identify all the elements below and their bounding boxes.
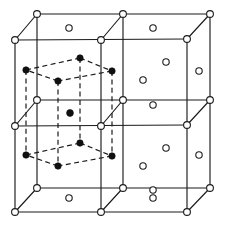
face-centre-atoms-point-8: [163, 59, 169, 65]
inner-cell-corner-atoms-point-7: [55, 163, 61, 169]
lattice-corner-atoms-point-1: [98, 37, 105, 44]
lattice-diagram-canvas: [0, 0, 225, 227]
cube-edge-19: [101, 188, 123, 212]
tetragonal-edge-1: [80, 58, 112, 71]
cube-edge-13: [101, 14, 123, 40]
face-centre-atoms: [66, 25, 202, 201]
lattice-corner-atoms-point-0: [12, 37, 19, 44]
tetragonal-edge-3: [26, 70, 58, 81]
cube-edge-12: [15, 14, 37, 40]
lattice-corner-atoms-point-3: [12, 123, 19, 130]
lattice-corner-atoms-point-13: [120, 97, 127, 104]
lattice-corner-atoms-point-2: [184, 36, 191, 43]
lattice-corner-atoms-point-17: [207, 185, 214, 192]
lattice-corner-atoms-point-14: [207, 97, 214, 104]
lattice-corner-atoms-point-5: [184, 122, 191, 129]
lattice-corner-atoms-point-6: [12, 209, 19, 216]
inner-cell-corner-atoms-point-2: [109, 68, 115, 74]
face-centre-atoms-point-10: [150, 102, 156, 108]
lattice-corner-atoms-point-4: [98, 123, 105, 130]
lattice-corner-atoms-point-10: [120, 11, 127, 18]
lattice-corner-atoms-point-8: [184, 209, 191, 216]
inner-cell-corner-atoms-point-3: [55, 78, 61, 84]
inner-cell-corner-atoms-point-0: [23, 67, 29, 73]
inner-cell-corner-atoms-point-5: [77, 140, 83, 146]
face-centre-atoms-point-6: [140, 77, 146, 83]
face-centre-atoms-point-5: [196, 152, 202, 158]
tetragonal-edge-5: [80, 143, 112, 156]
tetragonal-edge-6: [58, 156, 112, 166]
cube-edge-17: [187, 100, 210, 125]
tetragonal-edge-0: [26, 58, 80, 70]
inner-cell-corner-atoms-point-6: [109, 153, 115, 159]
face-centre-atoms-point-4: [196, 68, 202, 74]
inner-cell-corner-atoms-point-4: [23, 152, 29, 158]
cube-edge-18: [15, 188, 37, 212]
tetragonal-edge-7: [26, 155, 58, 166]
face-centre-atoms-point-2: [66, 195, 72, 201]
lattice-corner-atoms-point-16: [120, 185, 127, 192]
lattice-corner-atoms-point-9: [34, 11, 41, 18]
crystal-lattice-figure: [0, 0, 225, 227]
face-centre-atoms-point-7: [140, 163, 146, 169]
face-centre-atoms-point-11: [150, 187, 156, 193]
inner-cell-body-centre-atom: [67, 110, 74, 117]
face-centre-atoms-point-9: [163, 145, 169, 151]
face-centre-atoms-point-0: [66, 25, 72, 31]
face-centre-atoms-point-3: [150, 195, 156, 201]
tetragonal-edge-4: [26, 143, 80, 155]
cube-edge-20: [187, 188, 210, 212]
lattice-corner-atoms-point-7: [98, 209, 105, 216]
inner-cell-corner-atoms-point-1: [77, 55, 83, 61]
tetragonal-edge-2: [58, 71, 112, 81]
face-centre-atoms-point-1: [150, 25, 156, 31]
lattice-corner-atoms-point-11: [207, 11, 214, 18]
cube-edge-14: [187, 14, 210, 39]
inner-cell-body-centre-atom-point-0: [67, 110, 74, 117]
lattice-corner-atoms-point-12: [34, 97, 41, 104]
lattice-corner-atoms-point-15: [34, 185, 41, 192]
